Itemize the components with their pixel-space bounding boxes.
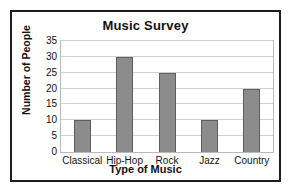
bar xyxy=(243,89,260,152)
bar-slot: Classical xyxy=(61,41,103,152)
y-tick-label: 15 xyxy=(46,98,57,109)
bar-slot: Hip-Hop xyxy=(103,41,145,152)
bar xyxy=(74,120,91,152)
y-tick-label: 0 xyxy=(51,146,57,157)
bar-series: ClassicalHip-HopRockJazzCountry xyxy=(61,41,273,152)
y-tick-label: 5 xyxy=(51,130,57,141)
plot-area: 05101520253035 ClassicalHip-HopRockJazzC… xyxy=(60,40,274,153)
y-tick-label: 35 xyxy=(46,35,57,46)
y-tick-label: 20 xyxy=(46,82,57,93)
y-tick-label: 10 xyxy=(46,114,57,125)
chart-figure: Music Survey Number of People 0510152025… xyxy=(10,10,281,182)
y-tick-label: 25 xyxy=(46,66,57,77)
bar xyxy=(201,120,218,152)
y-axis-label: Number of People xyxy=(20,20,32,120)
bar xyxy=(116,57,133,152)
bar xyxy=(159,73,176,152)
bar-slot: Jazz xyxy=(188,41,230,152)
x-axis-label: Type of Music xyxy=(12,163,279,175)
chart-title: Music Survey xyxy=(12,18,279,33)
bar-slot: Rock xyxy=(146,41,188,152)
bar-slot: Country xyxy=(231,41,273,152)
y-tick-label: 30 xyxy=(46,50,57,61)
